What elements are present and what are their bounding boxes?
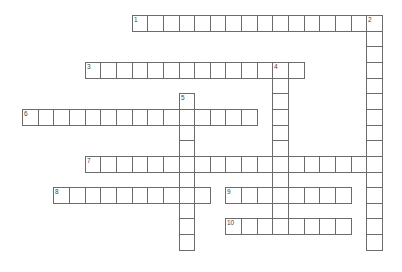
crossword-cell[interactable]: [366, 46, 383, 63]
crossword-cell[interactable]: [272, 125, 289, 141]
crossword-cell[interactable]: [147, 15, 164, 32]
crossword-cell[interactable]: [147, 109, 164, 126]
crossword-cell[interactable]: [335, 218, 352, 235]
crossword-cell[interactable]: [163, 156, 180, 173]
crossword-cell[interactable]: [272, 93, 289, 110]
crossword-cell[interactable]: [366, 125, 383, 141]
crossword-cell[interactable]: [351, 15, 367, 32]
crossword-cell[interactable]: [163, 15, 180, 32]
crossword-cell[interactable]: [225, 109, 242, 126]
crossword-cell[interactable]: [288, 187, 305, 204]
crossword-cell[interactable]: [179, 218, 195, 235]
crossword-cell[interactable]: [319, 187, 336, 204]
crossword-cell[interactable]: 8: [53, 187, 70, 204]
crossword-cell[interactable]: [179, 156, 195, 173]
crossword-cell[interactable]: [272, 172, 289, 188]
crossword-cell[interactable]: [179, 234, 195, 251]
crossword-cell[interactable]: [366, 140, 383, 157]
crossword-cell[interactable]: [366, 203, 383, 219]
crossword-cell[interactable]: [100, 187, 117, 204]
crossword-cell[interactable]: [194, 187, 211, 204]
crossword-cell[interactable]: [132, 156, 148, 173]
crossword-cell[interactable]: [366, 93, 383, 110]
crossword-cell[interactable]: 10: [225, 218, 242, 235]
crossword-cell[interactable]: [304, 156, 320, 173]
crossword-cell[interactable]: [366, 172, 383, 188]
crossword-cell[interactable]: [366, 187, 383, 204]
crossword-cell[interactable]: 5: [179, 93, 195, 110]
crossword-cell[interactable]: [366, 31, 383, 47]
crossword-cell[interactable]: [100, 156, 117, 173]
crossword-cell[interactable]: [210, 156, 226, 173]
crossword-cell[interactable]: [272, 78, 289, 94]
crossword-cell[interactable]: 2: [366, 15, 383, 32]
crossword-cell[interactable]: [132, 62, 148, 79]
crossword-cell[interactable]: [335, 187, 352, 204]
crossword-cell[interactable]: [179, 125, 195, 141]
crossword-cell[interactable]: [210, 62, 226, 79]
crossword-cell[interactable]: [272, 187, 289, 204]
crossword-cell[interactable]: [241, 15, 258, 32]
crossword-cell[interactable]: [257, 218, 273, 235]
crossword-cell[interactable]: [194, 15, 211, 32]
crossword-cell[interactable]: [319, 218, 336, 235]
crossword-cell[interactable]: [116, 109, 133, 126]
crossword-cell[interactable]: [304, 15, 320, 32]
crossword-cell[interactable]: [225, 62, 242, 79]
crossword-cell[interactable]: [53, 109, 70, 126]
crossword-cell[interactable]: [116, 62, 133, 79]
crossword-cell[interactable]: [163, 109, 180, 126]
crossword-cell[interactable]: [272, 218, 289, 235]
crossword-cell[interactable]: [272, 203, 289, 219]
crossword-cell[interactable]: [288, 62, 305, 79]
crossword-cell[interactable]: [179, 109, 195, 126]
crossword-cell[interactable]: 1: [132, 15, 148, 32]
crossword-cell[interactable]: [225, 156, 242, 173]
crossword-cell[interactable]: [241, 62, 258, 79]
crossword-cell[interactable]: [241, 109, 258, 126]
crossword-cell[interactable]: [147, 187, 164, 204]
crossword-cell[interactable]: [304, 187, 320, 204]
crossword-cell[interactable]: [194, 156, 211, 173]
crossword-cell[interactable]: [179, 15, 195, 32]
crossword-cell[interactable]: [179, 203, 195, 219]
crossword-cell[interactable]: 6: [22, 109, 39, 126]
crossword-cell[interactable]: [38, 109, 54, 126]
crossword-cell[interactable]: [179, 62, 195, 79]
crossword-cell[interactable]: [116, 156, 133, 173]
crossword-cell[interactable]: [335, 156, 352, 173]
crossword-cell[interactable]: 4: [272, 62, 289, 79]
crossword-cell[interactable]: [147, 156, 164, 173]
crossword-cell[interactable]: [210, 109, 226, 126]
crossword-cell[interactable]: [351, 156, 367, 173]
crossword-cell[interactable]: [366, 78, 383, 94]
crossword-cell[interactable]: [100, 109, 117, 126]
crossword-cell[interactable]: [366, 218, 383, 235]
crossword-cell[interactable]: [69, 187, 86, 204]
crossword-cell[interactable]: [366, 156, 383, 173]
crossword-cell[interactable]: 9: [225, 187, 242, 204]
crossword-cell[interactable]: [257, 187, 273, 204]
crossword-cell[interactable]: [241, 218, 258, 235]
crossword-cell[interactable]: 7: [85, 156, 101, 173]
crossword-cell[interactable]: [304, 218, 320, 235]
crossword-cell[interactable]: [85, 109, 101, 126]
crossword-cell[interactable]: [194, 62, 211, 79]
crossword-cell[interactable]: [85, 187, 101, 204]
crossword-cell[interactable]: [194, 109, 211, 126]
crossword-cell[interactable]: [335, 15, 352, 32]
crossword-cell[interactable]: 3: [85, 62, 101, 79]
crossword-cell[interactable]: [288, 15, 305, 32]
crossword-cell[interactable]: [132, 109, 148, 126]
crossword-cell[interactable]: [257, 156, 273, 173]
crossword-cell[interactable]: [272, 109, 289, 126]
crossword-cell[interactable]: [163, 62, 180, 79]
crossword-cell[interactable]: [210, 15, 226, 32]
crossword-cell[interactable]: [366, 234, 383, 251]
crossword-cell[interactable]: [288, 218, 305, 235]
crossword-cell[interactable]: [319, 156, 336, 173]
crossword-cell[interactable]: [69, 109, 86, 126]
crossword-cell[interactable]: [179, 140, 195, 157]
crossword-cell[interactable]: [241, 187, 258, 204]
crossword-cell[interactable]: [257, 15, 273, 32]
